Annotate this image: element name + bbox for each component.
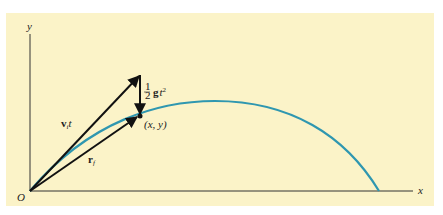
position-point [138, 114, 143, 119]
y-axis-label: y [26, 20, 32, 32]
x-axis-label: x [417, 184, 423, 196]
projectile-motion-diagram: y x O vit 1 2 gt2 (x, y) rf [0, 0, 443, 215]
origin-label: O [17, 191, 25, 203]
svg-text:2: 2 [145, 89, 151, 101]
point-label: (x, y) [144, 118, 167, 131]
